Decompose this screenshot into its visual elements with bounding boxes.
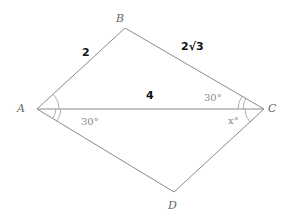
vertex-label-a: A <box>16 102 25 115</box>
angle-arc-cad-inner <box>53 109 56 118</box>
angle-label-bca: 30° <box>204 92 222 103</box>
edge-da <box>37 109 174 192</box>
vertex-label-b: B <box>115 12 124 25</box>
vertex-label-c: C <box>268 102 277 115</box>
angle-arc-bac <box>53 94 59 109</box>
angle-label-acd: x° <box>228 115 239 126</box>
angle-arc-acd <box>245 109 250 122</box>
angle-arc-bca-outer <box>238 96 242 109</box>
angle-label-cad: 30° <box>81 116 99 127</box>
side-label-bc: 2√3 <box>181 40 204 53</box>
side-label-ac: 4 <box>146 89 154 102</box>
angle-arc-cad-outer <box>57 109 61 121</box>
edge-ab <box>37 28 125 109</box>
edge-cd <box>174 109 264 192</box>
vertex-label-d: D <box>167 199 177 212</box>
geometry-diagram: A B C D 30° 30° x° 2 2√3 4 <box>0 0 288 216</box>
angle-arc-bca-inner <box>243 98 246 109</box>
side-label-ab: 2 <box>82 46 90 59</box>
